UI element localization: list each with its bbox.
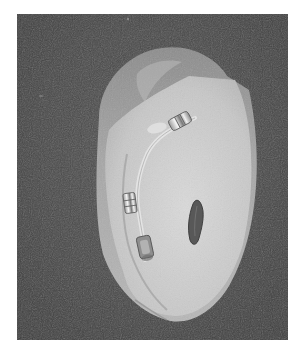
prosthesis-photo bbox=[17, 14, 288, 340]
backdrop-speck-2 bbox=[39, 95, 43, 97]
electrode-contact-middle bbox=[123, 192, 138, 213]
photograph bbox=[17, 14, 288, 340]
backdrop-speck bbox=[127, 18, 129, 20]
